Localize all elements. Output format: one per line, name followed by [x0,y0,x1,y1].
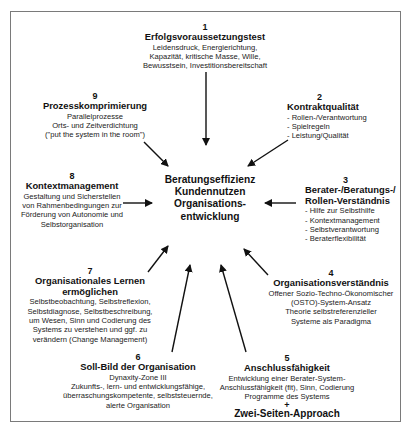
node-text: Entwicklung einer Berater-System- [212,374,362,383]
node-text: - Beraterflexibilität [305,234,405,243]
node-3-berater-rollenverstaendnis: 3 Berater-/Beratungs-/ Rollen-Verständni… [305,175,405,244]
node-text: ("put the system in the room") [30,130,160,139]
node-text: Selbstorganisation [16,220,128,229]
node-title: Kontextmanagement [16,181,128,192]
node-text: - Spielregeln [287,122,397,131]
node-text: Systems zu verstehen und ggf. zu [20,325,160,334]
node-extra-title: Zwei-Seiten-Approach [212,409,362,420]
node-7-organisationales-lernen: 7 Organisationales Lernen ermöglichen Se… [20,266,160,344]
center-line: entwicklung [140,211,280,223]
node-title: Kontraktqualität [287,102,397,113]
node-text: Offener Sozio-Techno-Ökonomischer [256,289,406,298]
node-title: Organisationales Lernen [20,276,160,287]
node-text: - Kontextmanagement [305,216,405,225]
node-text: Selbstbeobachtung, Selbstreflexion, [20,297,160,306]
arrow-2 [248,140,288,166]
node-text: Gestaltung und Sicherstellen [16,192,128,201]
node-title: Rollen-Verständnis [305,196,405,207]
node-text: Zukunfts-, lern- und entwicklungsfähige, [58,382,218,391]
node-text: Theorie selbstreferenzieller [256,307,406,316]
node-text: (OSTO)-System-Ansatz [256,298,406,307]
node-text: Förderung von Autonomie und [16,210,128,219]
node-text: Kapazität, kritische Masse, Wille, [110,52,300,61]
node-title: Prozesskomprimierung [30,101,160,112]
node-text: alerte Organisation [58,401,218,410]
center-line: Kundennutzen [140,186,280,198]
node-text: Bewusstsein, Investitionsbereitschaft [110,61,300,70]
node-text: Dynaxity-Zone III [58,373,218,382]
center-goal: Beratungseffizienz Kundennutzen Organisa… [140,174,280,223]
node-4-organisationsverstaendnis: 4 Organisationsverständnis Offener Sozio… [256,268,406,326]
node-1-erfolgsvoraussetzungstest: 1 Erfolgsvoraussetzungstest Leidensdruck… [110,22,300,71]
node-text: - Leistung/Qualität [287,131,397,140]
node-title: Soll-Bild der Organisation [58,362,218,373]
node-text: - Selbstverantwortung [305,225,405,234]
node-2-kontraktqualitaet: 2 Kontraktqualität - Rollen-/Verantwortu… [287,92,397,141]
node-text: Anschlussfähigkeit (fit), Sinn, Codierun… [212,383,362,392]
center-line: Organisations- [140,198,280,210]
node-text: - Rollen-/Verantwortung [287,113,397,122]
node-text: um Wesen, Sinn und Codierung des [20,316,160,325]
node-text: - Hilfe zur Selbsthilfe [305,206,405,215]
node-text: Systeme als Paradigma [256,317,406,326]
node-text: Parallelprozesse [30,112,160,121]
node-text: Selbstdiagnose, Selbstbeschreibung, [20,307,160,316]
node-text: von Rahmenbedingungen zur [16,201,128,210]
arrow-6 [172,265,190,352]
node-text: überraschungskompetente, selbststeuernde… [58,391,218,400]
node-title: Organisationsverständnis [256,278,406,289]
arrow-5 [221,265,246,352]
node-text: Leidensdruck, Energierichtung, [110,43,300,52]
node-8-kontextmanagement: 8 Kontextmanagement Gestaltung und Siche… [16,171,128,229]
node-6-soll-bild: 6 Soll-Bild der Organisation Dynaxity-Zo… [58,352,218,410]
node-text: verändern (Change Management) [20,335,160,344]
node-9-prozesskomprimierung: 9 Prozesskomprimierung Parallelprozesse … [30,91,160,140]
node-title: Erfolgsvoraussetzungstest [110,32,300,43]
node-title: Anschlussfähigkeit [212,363,362,374]
node-text: Orts- und Zeitverdichtung [30,121,160,130]
arrow-9 [144,142,168,166]
node-title: ermöglichen [20,287,160,298]
node-title: Berater-/Beratungs-/ [305,185,405,196]
node-5-anschlussfaehigkeit: 5 Anschlussfähigkeit Entwicklung einer B… [212,353,362,419]
center-line: Beratungseffizienz [140,174,280,186]
